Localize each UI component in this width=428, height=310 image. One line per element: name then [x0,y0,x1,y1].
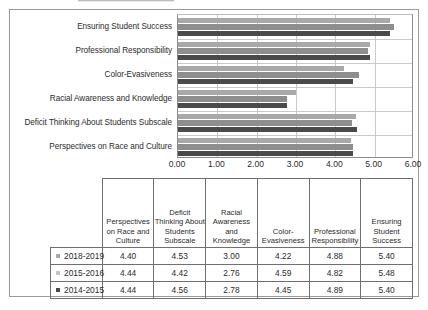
category-label: Perspectives on Race and Culture [49,142,172,151]
table-cell: 3.00 [206,248,258,265]
bar [178,114,356,119]
bar [178,66,344,71]
series-label: 2018-2019 [64,251,104,261]
axis-tick-label: 3.00 [287,159,304,169]
bar [178,120,352,125]
table-cell: 5.48 [361,265,413,282]
group-separator [178,111,412,112]
category-label: Professional Responsibility [76,46,173,55]
bar [178,127,357,132]
bar [178,90,296,95]
axis-tick-label: 6.00 [405,159,422,169]
series-legend-cell: 2015-2016 [51,265,103,282]
bar [178,72,359,77]
bar [178,31,390,36]
table-header-cell: Ensuring Student Success [361,179,413,248]
table-header-cell: Professional Responsibility [309,179,361,248]
bar-chart: Ensuring Student Success Professional Re… [0,0,428,172]
table-header-row: Perspectives on Race and Culture Deficit… [51,179,413,248]
value-axis-ticks: 0.001.002.003.004.005.006.00 [177,159,413,173]
group-separator [178,135,412,136]
table-cell: 4.40 [102,248,154,265]
table-row: 2014-20154.444.562.784.454.895.40 [51,282,413,299]
table-body: 2018-20194.404.533.004.224.885.402015-20… [51,248,413,299]
table-header-cell: Deficit Thinking About Students Subscale [154,179,206,248]
series-label: 2015-2016 [64,268,104,278]
axis-tick-label: 1.00 [208,159,225,169]
category-label: Racial Awareness and Knowledge [50,94,172,103]
table-cell: 4.88 [309,248,361,265]
legend-swatch-icon [56,254,60,258]
table-cell: 4.82 [309,265,361,282]
bar [178,79,353,84]
table-cell: 5.40 [361,282,413,299]
axis-tick-label: 0.00 [169,159,186,169]
value-axis-line [177,157,413,158]
bar [178,42,370,47]
bar [178,138,351,143]
table-cell: 4.53 [154,248,206,265]
table-header-cell: Perspectives on Race and Culture [102,179,154,248]
bar [178,144,353,149]
series-legend-cell: 2018-2019 [51,248,103,265]
table-cell: 4.89 [309,282,361,299]
table-cell: 4.44 [102,265,154,282]
category-label: Deficit Thinking About Students Subscale [24,118,172,127]
table-cell: 4.45 [257,282,309,299]
bar [178,151,353,156]
axis-tick-label: 2.00 [247,159,264,169]
category-axis-labels: Ensuring Student Success Professional Re… [0,14,172,158]
table-corner-cell [51,179,103,248]
bar [178,55,370,60]
table-cell: 2.78 [206,282,258,299]
bar [178,24,394,29]
bar [178,18,390,23]
table-row: 2015-20164.444.422.764.594.825.48 [51,265,413,282]
series-legend-cell: 2014-2015 [51,282,103,299]
table-cell: 2.76 [206,265,258,282]
series-label: 2014-2015 [64,285,104,295]
axis-tick-label: 5.00 [365,159,382,169]
table-row: 2018-20194.404.533.004.224.885.40 [51,248,413,265]
table-header-cell: Racial Awareness and Knowledge [206,179,258,248]
data-table: Perspectives on Race and Culture Deficit… [50,178,413,299]
table-cell: 5.40 [361,248,413,265]
table-cell: 4.44 [102,282,154,299]
table-cell: 4.22 [257,248,309,265]
axis-tick-label: 4.00 [326,159,343,169]
bar [178,96,287,101]
bar [178,48,368,53]
table-cell: 4.56 [154,282,206,299]
table-cell: 4.59 [257,265,309,282]
plot-area [177,14,413,158]
legend-swatch-icon [56,271,60,275]
table-cell: 4.42 [154,265,206,282]
category-label: Color-Evasiveness [105,70,172,79]
bar [178,103,287,108]
group-separator [178,63,412,64]
table-header-cell: Color-Evasiveness [257,179,309,248]
group-separator [178,87,412,88]
category-label: Ensuring Student Success [77,22,172,31]
group-separator [178,39,412,40]
legend-swatch-icon [56,288,60,292]
